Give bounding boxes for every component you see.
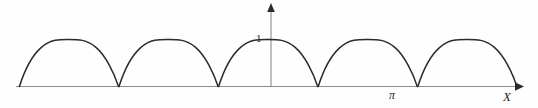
x-tick-label-pi: π: [389, 89, 395, 101]
plot-canvas: [0, 0, 538, 108]
y-tick-label-one: 1: [256, 33, 262, 44]
abs-sine-curve-last-arc: [418, 39, 517, 86]
y-axis-arrowhead: [267, 3, 275, 12]
graph-figure: 1 π X: [0, 0, 538, 108]
x-axis-label: X: [503, 90, 511, 103]
abs-sine-curve: [19, 39, 417, 86]
